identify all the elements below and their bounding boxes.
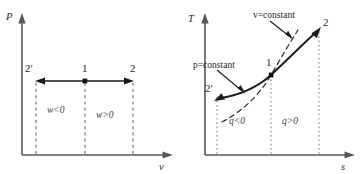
- ts-region-label-negative-heat: q<0: [229, 116, 245, 126]
- ts-isochore-curve: [222, 30, 298, 122]
- pv-y-axis-label: P: [5, 11, 13, 22]
- ts-arrow-2: [312, 27, 322, 38]
- ts-region-label-positive-heat: q>0: [282, 116, 298, 126]
- ts-guide-lines: [217, 32, 319, 154]
- pv-x-axis: [22, 151, 173, 158]
- ts-state-label-2: 2: [323, 16, 329, 28]
- ts-x-axis-label: s: [341, 161, 345, 172]
- ts-state-label-2prime: 2′: [205, 82, 213, 94]
- ts-isobar-leader: [217, 70, 246, 94]
- pv-state-label-2prime: 2′: [25, 62, 33, 74]
- ts-isochore-leader: [270, 21, 293, 40]
- ts-arrow-2prime: [214, 93, 225, 101]
- pv-x-axis-label: v: [159, 161, 164, 172]
- ts-diagram-svg: T s 2′ 1 2 p=constant v=constant q<0 q>0: [181, 0, 363, 174]
- pv-y-axis: [18, 13, 25, 155]
- pv-guide-lines: [36, 82, 133, 154]
- pv-process-line: [35, 78, 134, 85]
- ts-annotation-isobar: p=constant: [193, 60, 235, 70]
- ts-annotation-isochore: v=constant: [253, 10, 295, 20]
- pv-state-label-2: 2: [130, 62, 136, 74]
- pv-diagram-panel: P v 2′ 1 2 w<0 w>0: [0, 0, 182, 174]
- ts-state-dot-1: [269, 73, 274, 78]
- figure-root: P v 2′ 1 2 w<0 w>0: [0, 0, 363, 174]
- ts-state-label-1: 1: [266, 56, 272, 68]
- pv-diagram-svg: P v 2′ 1 2 w<0 w>0: [0, 0, 182, 174]
- pv-region-label-negative-work: w<0: [47, 105, 65, 115]
- ts-y-axis-label: T: [188, 13, 195, 24]
- ts-x-axis: [205, 151, 355, 158]
- pv-state-label-1: 1: [82, 62, 88, 74]
- pv-region-label-positive-work: w>0: [96, 110, 114, 120]
- ts-diagram-panel: T s 2′ 1 2 p=constant v=constant q<0 q>0: [181, 0, 363, 174]
- pv-state-dot-1: [83, 79, 88, 84]
